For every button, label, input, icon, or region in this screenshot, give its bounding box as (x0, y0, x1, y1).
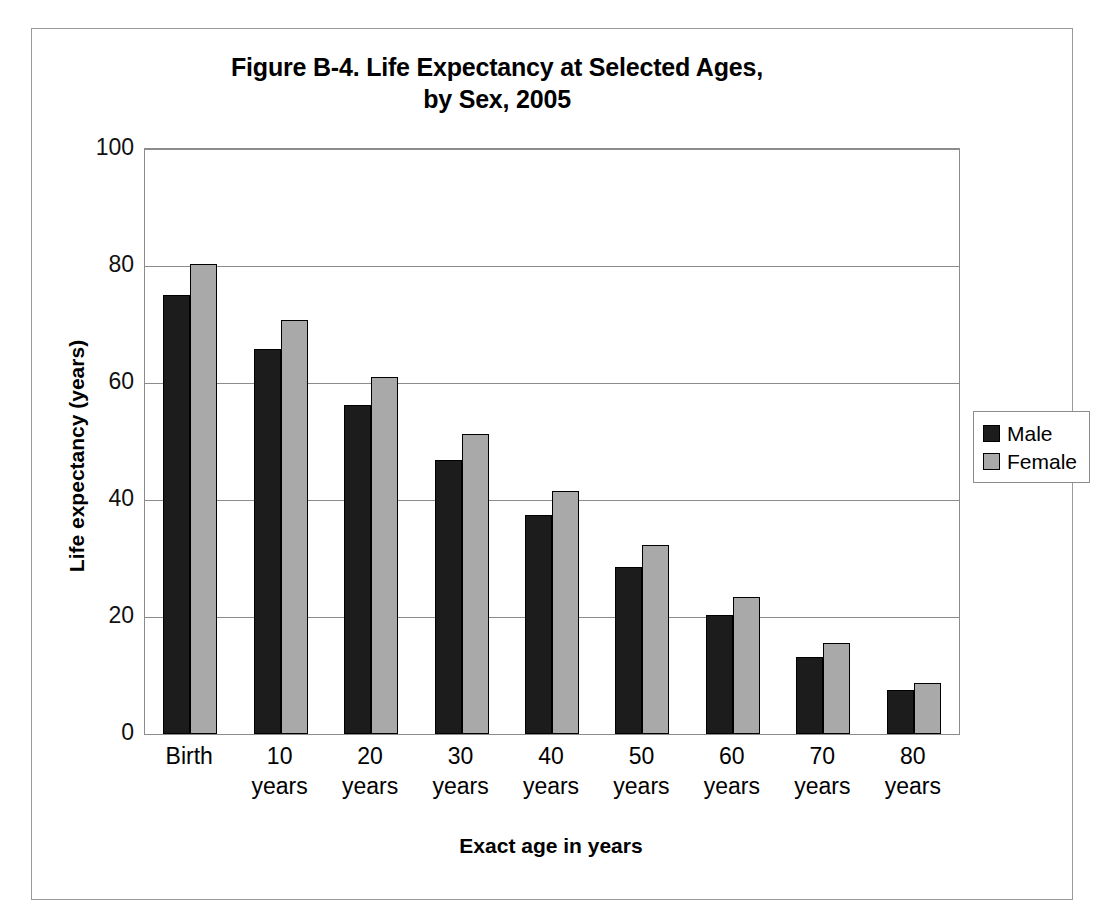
x-axis-title: Exact age in years (144, 834, 958, 858)
x-axis-tick-label-main: 40 (538, 743, 564, 769)
chart-title-line2: by Sex, 2005 (32, 83, 962, 115)
figure-frame: Figure B-4. Life Expectancy at Selected … (31, 28, 1073, 900)
y-axis-tick-label: 40 (70, 485, 134, 512)
bar-female[interactable] (733, 597, 760, 734)
x-axis-tick-label: 80years (858, 741, 968, 801)
bar-group (435, 149, 489, 734)
bar-group (254, 149, 308, 734)
legend-label: Female (1007, 451, 1077, 472)
bar-male[interactable] (796, 657, 823, 734)
bar-male[interactable] (254, 349, 281, 735)
y-axis-tick-label: 60 (70, 368, 134, 395)
legend-item-female[interactable]: Female (983, 447, 1077, 475)
x-axis-tick-label-main: 30 (448, 743, 474, 769)
y-axis-tick-labels: 020406080100 (56, 148, 134, 733)
y-axis-tick-label: 20 (70, 602, 134, 629)
chart-title: Figure B-4. Life Expectancy at Selected … (32, 51, 962, 115)
y-axis-tick-label: 100 (70, 134, 134, 161)
x-axis-tick-label-main: 80 (900, 743, 926, 769)
x-axis-tick-label-main: 10 (267, 743, 293, 769)
plot-area (144, 148, 960, 735)
bar-female[interactable] (371, 377, 398, 734)
bar-group (796, 149, 850, 734)
bar-female[interactable] (552, 491, 579, 734)
bar-group (344, 149, 398, 734)
x-axis-tick-label-main: 50 (629, 743, 655, 769)
legend-swatch-icon (983, 453, 1000, 470)
bar-group (887, 149, 941, 734)
legend: MaleFemale (973, 411, 1090, 483)
bar-female[interactable] (642, 545, 669, 734)
bar-group (615, 149, 669, 734)
y-axis-tick-label: 0 (70, 719, 134, 746)
bar-male[interactable] (525, 515, 552, 734)
bar-group (706, 149, 760, 734)
bar-male[interactable] (163, 295, 190, 734)
legend-swatch-icon (983, 425, 1000, 442)
bar-male[interactable] (435, 460, 462, 734)
chart-title-line1: Figure B-4. Life Expectancy at Selected … (231, 53, 763, 81)
x-axis-tick-label-sub: years (858, 771, 968, 801)
bar-female[interactable] (190, 264, 217, 734)
bar-group (163, 149, 217, 734)
bar-female[interactable] (281, 320, 308, 734)
bar-male[interactable] (887, 690, 914, 734)
x-axis-tick-label-main: 70 (810, 743, 836, 769)
x-axis-tick-label-main: Birth (166, 743, 213, 769)
x-axis-tick-labels: Birth10years20years30years40years50years… (144, 741, 958, 831)
bar-group (525, 149, 579, 734)
bar-male[interactable] (706, 615, 733, 734)
y-axis-tick-label: 80 (70, 251, 134, 278)
legend-item-male[interactable]: Male (983, 419, 1077, 447)
legend-label: Male (1007, 423, 1053, 444)
bar-female[interactable] (462, 434, 489, 734)
bar-male[interactable] (344, 405, 371, 734)
bar-male[interactable] (615, 567, 642, 734)
bar-female[interactable] (823, 643, 850, 734)
x-axis-tick-label-main: 60 (719, 743, 745, 769)
bar-female[interactable] (914, 683, 941, 734)
x-axis-tick-label-main: 20 (357, 743, 383, 769)
